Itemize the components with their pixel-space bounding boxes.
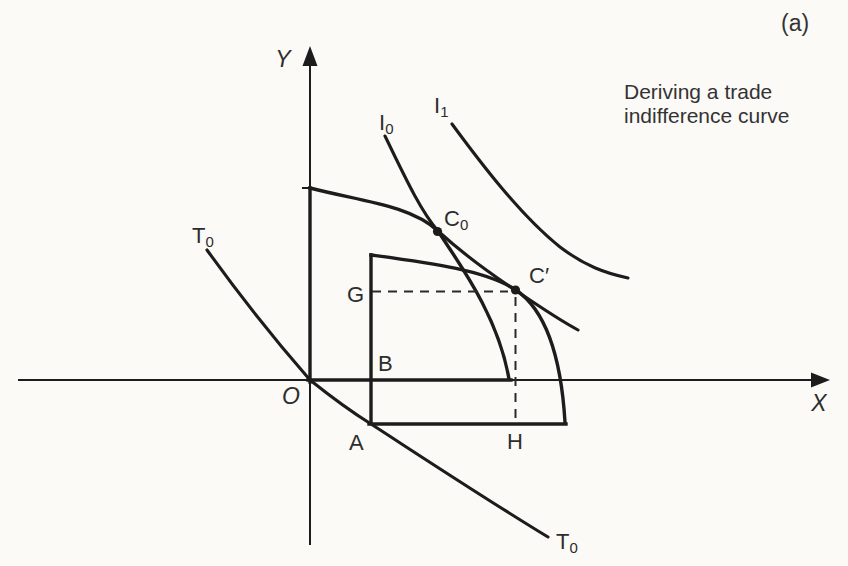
trade-curve-label-top: T0: [192, 223, 214, 250]
indifference-curve-I0-label: I0: [379, 110, 393, 137]
origin-label: O: [282, 383, 300, 409]
indifference-curve-I1: [452, 124, 628, 278]
trade-indifference-diagram: (a) Deriving a trade indifference curve …: [0, 0, 848, 566]
point-Cprime-label: C′: [529, 263, 549, 288]
point-A-label: A: [349, 430, 364, 455]
point-C0-label: C0: [444, 206, 468, 233]
figure-canvas: (a) Deriving a trade indifference curve …: [0, 0, 848, 566]
point-Cprime-dot: [511, 285, 520, 294]
trade-indifference-curve-T0: [207, 250, 548, 537]
y-axis-label: Y: [275, 46, 292, 72]
panel-label: (a): [781, 10, 809, 36]
production-block-1-edges: [308, 188, 511, 382]
point-G-label: G: [347, 282, 364, 307]
caption-line-1: Deriving a trade: [624, 80, 772, 103]
indifference-curve-I1-label: I1: [434, 93, 448, 120]
x-axis-arrowhead-icon: [811, 373, 830, 388]
trade-curve-label-bottom: T0: [556, 529, 578, 556]
x-axis-label: X: [810, 390, 828, 416]
y-axis-arrowhead-icon: [303, 46, 318, 66]
point-H-label: H: [507, 429, 523, 454]
point-C0-dot: [433, 227, 442, 236]
production-block-1-frontier: [310, 188, 509, 379]
point-B-label: B: [378, 351, 393, 376]
caption-line-2: indifference curve: [624, 104, 789, 127]
